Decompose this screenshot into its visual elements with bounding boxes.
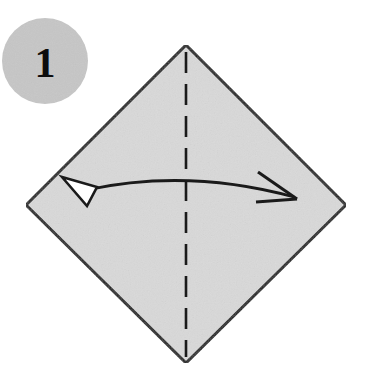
step-number-label: 1 bbox=[35, 40, 56, 86]
origami-step-diagram: 1 bbox=[0, 0, 371, 387]
diagram-canvas: 1 bbox=[0, 0, 371, 387]
step-number-badge: 1 bbox=[2, 18, 88, 104]
